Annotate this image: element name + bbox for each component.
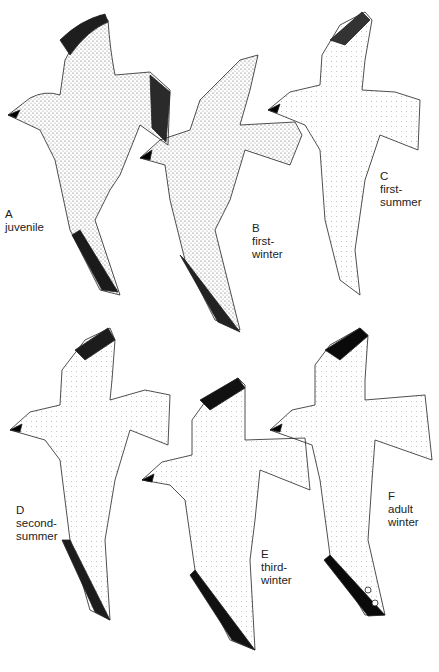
gull-d-second-summer	[10, 328, 170, 620]
label-b-line-1: first-	[252, 235, 283, 248]
label-e-line-2: winter	[261, 574, 292, 587]
label-d-letter: D	[16, 504, 58, 517]
label-f-line-2: winter	[388, 516, 419, 529]
label-b-letter: B	[252, 222, 283, 235]
label-e: E third- winter	[261, 548, 292, 587]
label-d: D second- summer	[16, 504, 58, 543]
label-f-letter: F	[388, 490, 419, 503]
label-e-line-1: third-	[261, 561, 292, 574]
label-f: F adult winter	[388, 490, 419, 529]
label-c-line-1: first-	[380, 183, 422, 196]
label-d-line-1: second-	[16, 517, 58, 530]
label-e-letter: E	[261, 548, 292, 561]
label-b-line-2: winter	[252, 248, 283, 261]
label-f-line-1: adult	[388, 503, 419, 516]
label-c-letter: C	[380, 170, 422, 183]
label-a-line-1: juvenile	[5, 221, 44, 234]
label-b: B first- winter	[252, 222, 283, 261]
label-c: C first- summer	[380, 170, 422, 209]
label-d-line-2: summer	[16, 530, 58, 543]
gull-plate-illustration	[0, 0, 439, 672]
label-c-line-2: summer	[380, 196, 422, 209]
label-a-letter: A	[5, 208, 44, 221]
label-a: A juvenile	[5, 208, 44, 234]
